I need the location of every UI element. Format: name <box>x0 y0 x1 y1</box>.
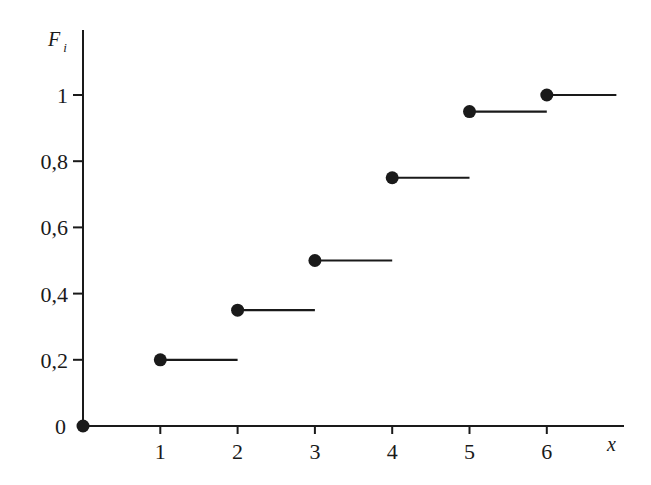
y-axis-ticks: 00,20,40,60,81 <box>41 83 84 439</box>
x-tick-label: 4 <box>387 439 398 464</box>
data-point-marker <box>154 353 167 366</box>
data-point-marker <box>540 89 553 102</box>
y-tick-label: 1 <box>57 83 68 108</box>
y-tick-label: 0,4 <box>41 282 69 307</box>
y-tick-label: 0,2 <box>41 348 69 373</box>
x-axis-title: x <box>606 433 616 455</box>
x-tick-label: 2 <box>232 439 243 464</box>
x-tick-label: 1 <box>155 439 166 464</box>
step-series <box>77 89 617 433</box>
x-tick-label: 5 <box>464 439 475 464</box>
y-tick-label: 0 <box>55 414 66 439</box>
x-tick-label: 6 <box>541 439 552 464</box>
y-tick-label: 0,6 <box>41 215 69 240</box>
axes <box>83 30 624 426</box>
data-point-marker <box>386 171 399 184</box>
data-point-marker <box>77 420 90 433</box>
x-tick-label: 3 <box>309 439 320 464</box>
data-point-marker <box>231 304 244 317</box>
y-axis-title: Fi <box>47 28 67 55</box>
y-axis-title-subscript: i <box>63 40 67 55</box>
step-function-chart: 00,20,40,60,81 123456 Fi x <box>0 0 651 485</box>
data-point-marker <box>308 254 321 267</box>
y-tick-label: 0,8 <box>41 149 69 174</box>
x-axis-ticks: 123456 <box>155 426 553 464</box>
data-point-marker <box>463 105 476 118</box>
y-axis-title-main: F <box>47 28 61 50</box>
